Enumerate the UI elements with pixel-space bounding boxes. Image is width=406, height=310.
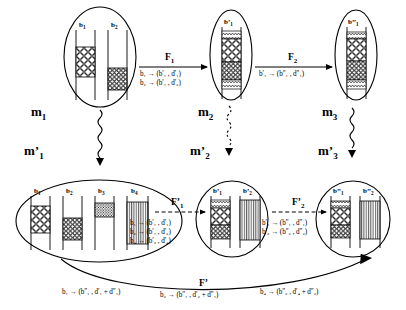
bar-m1-b1 xyxy=(76,30,95,100)
bar-label-m1prime-b1: b1 xyxy=(34,187,41,196)
arrow-mapping-f1prime-line3: b₄ → (b′₂ , d′₄) xyxy=(130,237,171,245)
arrow-f-prime-curve xyxy=(61,254,372,290)
arrow-mapping-f2prime-line2: b′₂ → (b″₂ , d″₂) xyxy=(262,228,307,236)
bar-m1prime-b3 xyxy=(95,196,114,250)
diagram-canvas: m1 m2 m3 m’1 m’2 m’3 b1 b2 b’1 b’’1 b1 b… xyxy=(0,0,406,310)
bar-m1prime-b1 xyxy=(31,196,50,250)
arrow-label-f2: F2 xyxy=(288,52,297,65)
arrow-mapping-fprime-line1: b₁ → (b″₁ , d′₁ + d″₁) xyxy=(62,288,120,296)
arrow-mapping-f1prime-line2: b₂ → (b′₁ , d′₂) xyxy=(130,228,171,236)
bar-m1prime-b2 xyxy=(63,196,82,250)
bar-label-m1-b2: b2 xyxy=(111,21,118,30)
arrow-mapping-f2-line1: b′₁ → (b″₁ , d″₁) xyxy=(259,70,304,78)
arrow-label-f-prime: F’ xyxy=(199,278,208,288)
arrow-mapping-fprime-line2: b₂ → (b″₁ , d′₂ + d″₁) xyxy=(160,291,218,299)
bar-label-m1prime-b3: b3 xyxy=(98,187,105,196)
arrow-label-f2-prime: F’2 xyxy=(292,197,304,210)
bar-label-m2-b1prime: b’1 xyxy=(224,18,233,27)
bar-label-m3-b1dprime: b’’1 xyxy=(348,18,359,27)
arrow-label-f1-prime: F’1 xyxy=(171,197,183,210)
bar-m2prime-b2prime xyxy=(240,196,260,248)
bar-m2prime-b1prime xyxy=(211,196,230,248)
module-label-m1: m1 xyxy=(31,104,46,122)
bar-m1-b2 xyxy=(108,30,127,100)
module-label-m3-prime: m’3 xyxy=(318,143,338,161)
refinement-arrow-m1 xyxy=(96,110,104,166)
module-ellipse-m1 xyxy=(64,7,136,107)
bar-label-m3prime-b2dprime: b’’2 xyxy=(363,187,374,196)
arrow-mapping-f1prime-line1: b₁ → (b′₁ , d′₁) xyxy=(130,219,171,227)
module-label-m1-prime: m’1 xyxy=(24,143,44,161)
arrow-mapping-f2prime-line1: b′₁ → (b″₁ , d″₁) xyxy=(262,219,307,227)
refinement-arrow-m3 xyxy=(348,108,356,158)
bar-label-m2prime-b2prime: b’2 xyxy=(243,187,252,196)
bar-m3prime-b2dprime xyxy=(360,196,380,248)
module-label-m2: m2 xyxy=(198,104,213,122)
bar-label-m2prime-b1prime: b’1 xyxy=(213,187,222,196)
arrow-mapping-f1-line1: b₁ → (b′₁ , d′₁) xyxy=(140,70,181,78)
module-label-m3: m3 xyxy=(322,104,337,122)
module-label-m2-prime: m’2 xyxy=(190,143,210,161)
bar-m2-b1prime xyxy=(222,27,241,99)
bar-m3-b1dprime xyxy=(347,27,366,99)
bar-label-m1prime-b4: b4 xyxy=(131,187,138,196)
arrow-label-f1: F1 xyxy=(165,52,174,65)
refinement-arrow-m2 xyxy=(225,106,233,156)
arrow-mapping-f1-line2: b₂ → (b′₁ , d′₂) xyxy=(140,79,181,87)
bar-label-m1-b1: b1 xyxy=(79,21,86,30)
bar-label-m1prime-b2: b2 xyxy=(66,187,73,196)
arrow-mapping-fprime-line3: b₄ → (b″₂ , d′₄ + d″₂) xyxy=(260,288,318,296)
bar-m3prime-b1dprime xyxy=(331,196,350,248)
bar-label-m3prime-b1dprime: b’’1 xyxy=(333,187,344,196)
